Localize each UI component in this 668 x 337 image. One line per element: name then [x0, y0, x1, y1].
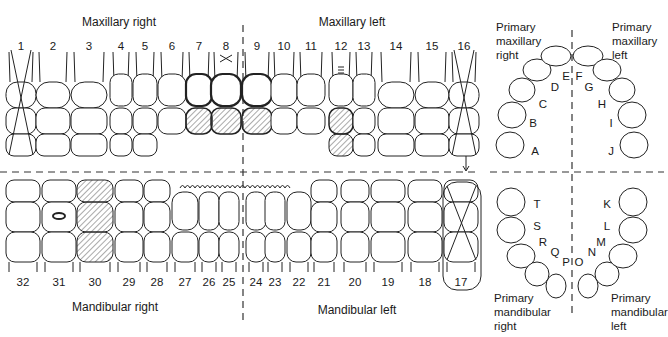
- tooth-number: 14: [390, 40, 403, 52]
- primary-lower-0: [497, 188, 525, 216]
- primary-tooth-letter: I: [609, 117, 612, 129]
- tooth-25: [219, 192, 239, 272]
- tooth-10: [271, 52, 297, 134]
- tooth-number: 22: [293, 276, 306, 288]
- tooth-20: [341, 180, 369, 272]
- label-maxillary-left: Maxillary left: [319, 15, 386, 29]
- tooth-number: 30: [89, 276, 102, 288]
- primary-tooth-letter: N: [588, 246, 596, 258]
- primary-upper-9: [620, 132, 648, 158]
- tooth-number: 2: [50, 40, 56, 52]
- primary-tooth-letter: T: [533, 198, 540, 210]
- tooth-4: [110, 52, 132, 156]
- tooth-number: 11: [305, 40, 317, 52]
- tooth-23: [265, 192, 285, 272]
- tooth-13: [353, 52, 375, 156]
- tooth-number: 25: [223, 276, 236, 288]
- tooth-11: [297, 52, 325, 134]
- tooth-number: 8: [223, 40, 229, 52]
- tooth-2: [36, 52, 70, 156]
- tooth-number: 4: [118, 40, 124, 52]
- primary-lower-5: [578, 274, 598, 298]
- tooth-29: [115, 180, 143, 272]
- primary-tooth-letter: O: [575, 256, 584, 268]
- tooth-16: [449, 52, 479, 156]
- primary-lower-1: [497, 217, 525, 243]
- primary-tooth-letter: H: [598, 98, 606, 110]
- label-mandibular-right: Mandibular right: [72, 300, 158, 314]
- tooth-number: 6: [169, 40, 175, 52]
- tooth-number: 7: [196, 40, 202, 52]
- tooth-9: [242, 52, 272, 134]
- tooth-number: 26: [203, 276, 216, 288]
- tooth-32: [6, 180, 40, 272]
- tooth-number: 24: [250, 276, 263, 288]
- tooth-14: [378, 52, 414, 156]
- tooth-number: 18: [419, 276, 432, 288]
- tooth-24: [246, 192, 266, 272]
- primary-tooth-letter: A: [531, 145, 539, 157]
- tooth-18: [408, 180, 442, 272]
- primary-tooth-letter: M: [596, 236, 606, 248]
- primary-tooth-letter: J: [608, 145, 614, 157]
- tooth-30: [77, 180, 113, 272]
- tooth-21: [311, 180, 337, 272]
- primary-tooth-letter: F: [575, 70, 582, 82]
- tooth-number: 10: [278, 40, 291, 52]
- tooth-number: 28: [151, 276, 164, 288]
- primary-upper-2: [509, 78, 535, 102]
- tooth-number: 1: [18, 40, 24, 52]
- primary-upper-7: [609, 78, 635, 102]
- label-primary-mandibular-right: Primary mandibular right: [494, 291, 551, 333]
- primary-upper-1: [498, 102, 526, 128]
- tooth-number: 31: [53, 276, 66, 288]
- tooth-number: 23: [269, 276, 282, 288]
- tooth-number: 19: [382, 276, 395, 288]
- tooth-number: 3: [86, 40, 92, 52]
- primary-tooth-letter: K: [603, 198, 611, 210]
- label-maxillary-right: Maxillary right: [82, 15, 156, 29]
- tooth-6: [158, 52, 186, 134]
- primary-upper-4: [541, 46, 571, 66]
- label-primary-mandibular-left: Primary mandibular left: [611, 291, 668, 333]
- label-primary-maxillary-left: Primary maxillary left: [612, 20, 657, 62]
- tooth-12: [329, 52, 353, 156]
- tooth-number: 17: [455, 276, 468, 288]
- tooth-15: [415, 52, 449, 156]
- primary-lower-9: [619, 188, 647, 216]
- primary-tooth-letter: Q: [551, 246, 560, 258]
- primary-tooth-letter: S: [533, 220, 541, 232]
- primary-upper-8: [618, 102, 646, 128]
- tooth-31: [42, 180, 76, 272]
- primary-tooth-letter: G: [585, 81, 594, 93]
- primary-lower-8: [619, 217, 647, 243]
- tooth-number: 32: [17, 276, 30, 288]
- tooth-number: 27: [179, 276, 192, 288]
- primary-tooth-letter: L: [604, 220, 610, 232]
- tooth-number: 29: [123, 276, 136, 288]
- tooth-number: 12: [335, 40, 348, 52]
- label-primary-maxillary-right: Primary maxillary right: [496, 20, 541, 62]
- tooth-3: [71, 52, 107, 156]
- tooth-number: 5: [142, 40, 148, 52]
- primary-tooth-letter: P: [562, 256, 570, 268]
- primary-tooth-letter: B: [529, 117, 537, 129]
- primary-lower-3: [525, 262, 549, 286]
- primary-upper-6: [593, 59, 621, 81]
- tooth-19: [371, 180, 405, 272]
- tooth-number: 16: [458, 40, 471, 52]
- tooth-5: [133, 52, 157, 156]
- tooth-27: [172, 192, 198, 272]
- primary-tooth-letter: E: [562, 70, 570, 82]
- primary-lower-7: [609, 244, 637, 268]
- label-mandibular-left: Mandibular left: [318, 303, 397, 317]
- tooth-number: 13: [358, 40, 371, 52]
- primary-upper-0: [496, 132, 524, 158]
- tooth-7: [186, 52, 212, 134]
- tooth-1: [6, 52, 36, 156]
- tooth-22: [287, 192, 311, 272]
- primary-tooth-letter: D: [551, 81, 559, 93]
- tooth-number: 15: [426, 40, 439, 52]
- tooth-26: [199, 192, 219, 272]
- tooth-number: 9: [254, 40, 260, 52]
